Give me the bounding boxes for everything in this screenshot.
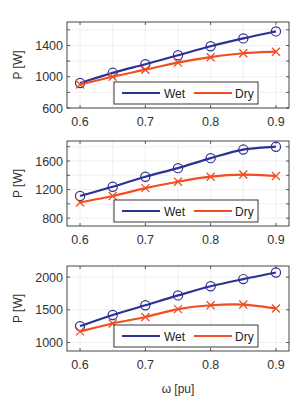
x-tick-label: 0.9: [267, 115, 284, 129]
y-tick-label: 1200: [35, 183, 63, 197]
x-tick-label: 0.6: [71, 115, 88, 129]
panel-middle: 800120016000.60.70.80.9P [W]WetDry: [11, 141, 289, 247]
y-tick-label: 1400: [35, 39, 63, 53]
legend-label-dry: Dry: [235, 87, 254, 101]
x-tick-label: 0.8: [202, 115, 219, 129]
x-axis-label: ω [pu]: [162, 382, 195, 396]
legend-label-dry: Dry: [235, 330, 254, 344]
y-tick-label: 1600: [35, 155, 63, 169]
y-tick-label: 600: [42, 102, 63, 116]
legend-label-dry: Dry: [235, 205, 254, 219]
y-axis-label: P [W]: [11, 50, 25, 79]
y-tick-label: 800: [42, 212, 63, 226]
x-tick-label: 0.9: [267, 233, 284, 247]
legend: WetDry: [114, 82, 258, 104]
x-tick-label: 0.7: [137, 115, 154, 129]
legend: WetDry: [114, 325, 258, 347]
panel-bottom: 1000150020000.60.70.80.9P [W]WetDry: [11, 266, 289, 372]
chart-canvas: 600100014000.60.70.80.9P [W]WetDry 80012…: [0, 0, 305, 408]
x-tick-label: 0.8: [202, 358, 219, 372]
legend-label-wet: Wet: [164, 205, 186, 219]
x-tick-label: 0.6: [71, 233, 88, 247]
y-axis-label: P [W]: [11, 169, 25, 198]
x-tick-label: 0.8: [202, 233, 219, 247]
y-tick-label: 1500: [35, 303, 63, 317]
y-tick-label: 1000: [35, 70, 63, 84]
x-tick-label: 0.6: [71, 358, 88, 372]
x-tick-label: 0.9: [267, 358, 284, 372]
x-tick-label: 0.7: [137, 358, 154, 372]
y-tick-label: 2000: [35, 271, 63, 285]
figure: 600100014000.60.70.80.9P [W]WetDry 80012…: [0, 0, 305, 408]
legend-label-wet: Wet: [164, 87, 186, 101]
legend-label-wet: Wet: [164, 330, 186, 344]
x-tick-label: 0.7: [137, 233, 154, 247]
panel-top: 600100014000.60.70.80.9P [W]WetDry: [11, 22, 289, 129]
legend: WetDry: [114, 200, 258, 222]
y-axis-label: P [W]: [11, 294, 25, 323]
y-tick-label: 1000: [35, 336, 63, 350]
